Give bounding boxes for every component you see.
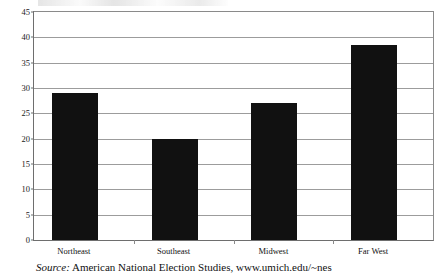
y-axis-tick-mark [31,62,34,63]
y-axis-tick-label: 5 [26,210,30,219]
y-axis-tick-label: 10 [22,185,31,194]
page-edge-artifact [38,0,228,6]
y-axis-tick-mark [31,88,34,89]
bar [52,93,98,240]
y-axis-tick-mark [31,37,34,38]
bar [251,103,297,240]
y-axis-tick-mark [31,240,34,241]
y-axis-tick-mark [31,138,34,139]
y-axis-tick-label: 40 [22,33,31,42]
source-note: Source: American National Election Studi… [36,261,332,273]
source-text: American National Election Studies, www.… [72,261,332,273]
y-axis-tick-label: 0 [26,236,30,245]
x-axis-category-label: Midwest [259,247,289,256]
y-axis-tick-label: 15 [22,160,31,169]
bar [152,139,198,240]
y-axis-tick-label: 25 [22,109,31,118]
y-axis-tick-label: 30 [22,84,31,93]
y-axis-tick-label: 20 [22,134,31,143]
y-axis-tick-mark [31,189,34,190]
plot-area: 051015202530354045 [33,11,434,241]
x-axis-category-label: Southeast [157,247,190,256]
y-axis-tick-mark [31,214,34,215]
y-axis-tick-label: 35 [22,58,31,67]
y-axis-tick-mark [31,113,34,114]
y-axis-tick-mark [31,164,34,165]
x-axis-category-label: Far West [358,247,388,256]
bar [351,45,397,240]
bar-chart-figure: 051015202530354045 Source: American Nati… [0,0,442,277]
gridline [34,37,433,38]
category-separator-tick [234,240,235,244]
y-axis-tick-mark [31,12,34,13]
x-axis-category-label: Northeast [57,247,90,256]
y-axis-tick-label: 45 [22,8,31,17]
category-separator-tick [134,240,135,244]
category-separator-tick [333,240,334,244]
source-label: Source: [36,261,70,273]
